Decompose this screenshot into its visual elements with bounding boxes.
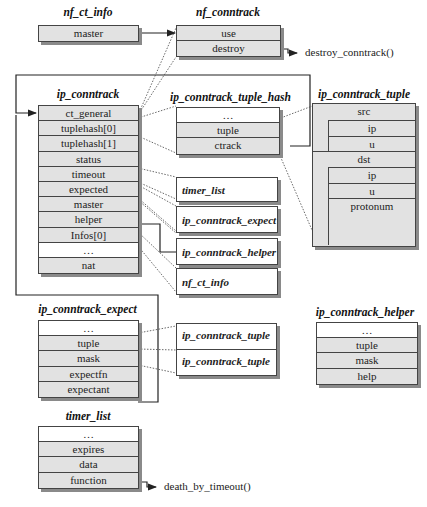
field-status: status <box>39 152 138 167</box>
field-dst: dst <box>313 151 415 167</box>
field-ellipsis: … <box>39 321 138 336</box>
field-helper: helper <box>39 212 138 227</box>
nf-conntrack-title: nf_conntrack <box>176 6 280 18</box>
ref-ip-conntrack-tuple-a: ip_conntrack_tuple <box>176 323 277 350</box>
nf-ct-info-title: nf_ct_info <box>38 6 138 18</box>
field-tuple: tuple <box>177 123 279 138</box>
ref-ip-conntrack-tuple-b: ip_conntrack_tuple <box>176 350 277 376</box>
ip-conntrack-title: ip_conntrack <box>38 88 138 100</box>
ip-conntrack-helper-title: ip_conntrack_helper <box>310 306 420 318</box>
field-use: use <box>177 26 280 41</box>
field-nat: nat <box>39 258 138 273</box>
field-tuple: tuple <box>39 336 138 351</box>
field-protonum: protonum <box>328 198 415 245</box>
field-mask: mask <box>317 353 417 368</box>
field-ellipsis: … <box>177 108 279 123</box>
field-master: master <box>39 197 138 212</box>
field-ellipsis: … <box>39 243 138 258</box>
field-ctrack: ctrack <box>177 138 279 153</box>
ip-conntrack-tuple-title: ip_conntrack_tuple <box>312 88 416 100</box>
field-ellipsis: … <box>39 427 138 442</box>
field-ellipsis: … <box>317 323 417 338</box>
field-src-u: u <box>328 136 415 152</box>
field-src-ip: ip <box>328 120 415 136</box>
timer-list-title: timer_list <box>38 410 138 422</box>
field-expected: expected <box>39 182 138 197</box>
field-timeout: timeout <box>39 167 138 182</box>
field-tuple: tuple <box>317 338 417 353</box>
field-tuplehash-1: tuplehash[1] <box>39 136 138 151</box>
ip-conntrack-helper-struct: … tuple mask help <box>316 322 418 385</box>
ref-timer-list: timer_list <box>176 177 278 202</box>
field-infos-0: Infos[0] <box>39 228 138 243</box>
field-data: data <box>39 457 138 472</box>
death-by-timeout-label: death_by_timeout() <box>164 480 251 492</box>
field-mask: mask <box>39 351 138 366</box>
field-ct-general: ct_general <box>39 106 138 121</box>
field-tuplehash-0: tuplehash[0] <box>39 121 138 136</box>
tuple-hash-struct: … tuple ctrack <box>176 107 280 155</box>
nf-conntrack-struct: use destroy <box>176 25 281 57</box>
field-dst-ip: ip <box>328 167 415 183</box>
ip-conntrack-struct: ct_general tuplehash[0] tuplehash[1] sta… <box>38 105 139 274</box>
destroy-conntrack-label: destroy_conntrack() <box>305 46 394 58</box>
tuple-hash-title: ip_conntrack_tuple_hash <box>170 91 286 103</box>
field-master: master <box>39 26 138 41</box>
field-src: src <box>313 104 415 120</box>
field-function: function <box>39 473 138 488</box>
nf-ct-info-struct: master <box>38 25 139 42</box>
ip-conntrack-expect-struct: … tuple mask expectfn expectant <box>38 320 139 398</box>
field-help: help <box>317 369 417 384</box>
timer-list-struct: … expires data function <box>38 426 139 489</box>
field-expectfn: expectfn <box>39 367 138 382</box>
ref-nf-ct-info: nf_ct_info <box>176 268 278 295</box>
field-expectant: expectant <box>39 382 138 397</box>
ref-ip-conntrack-helper: ip_conntrack_helper <box>176 238 278 265</box>
field-destroy: destroy <box>177 41 280 56</box>
field-expires: expires <box>39 442 138 457</box>
field-dst-u: u <box>328 183 415 199</box>
ref-ip-conntrack-expect: ip_conntrack_expect <box>176 206 278 233</box>
ip-conntrack-expect-title: ip_conntrack_expect <box>30 303 145 315</box>
ip-conntrack-tuple-struct: src ip u dst ip u protonum <box>312 103 416 247</box>
